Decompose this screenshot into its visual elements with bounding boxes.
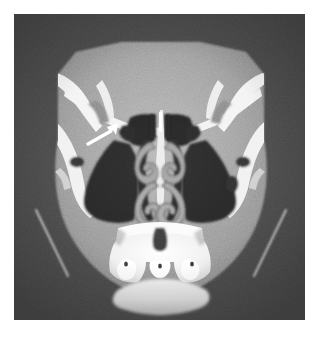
tooth-root-canal-left [124,261,128,266]
ct-scan-field [14,14,305,320]
scan-page: CT coronal paranasal sinuses bone left o… [0,0,320,340]
tooth-root-canal-right [190,261,194,266]
table-edge-streak-left [36,210,68,276]
ct-anatomy-svg [14,14,305,320]
table-edge-streak-right [254,210,286,276]
ct-anatomy-layer [14,14,305,320]
nasal-spine-notch [153,228,167,251]
tooth-root-canal-center [158,263,162,268]
